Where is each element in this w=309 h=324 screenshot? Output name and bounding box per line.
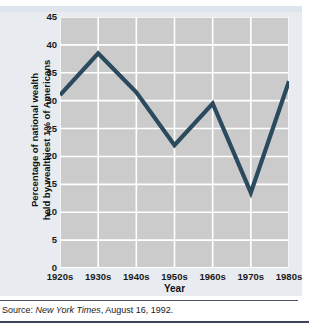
x-tick-label: 1970s bbox=[231, 271, 271, 283]
footer-rule-top bbox=[0, 300, 298, 301]
figure-container: 051015202530354045 1920s1930s1940s1950s1… bbox=[0, 0, 309, 324]
source-suffix: , August 16, 1992. bbox=[101, 305, 174, 315]
x-tick-label: 1980s bbox=[269, 271, 309, 283]
plot-area bbox=[60, 17, 289, 268]
x-axis-title: Year bbox=[60, 283, 289, 294]
x-tick-label: 1950s bbox=[155, 271, 195, 283]
source-publication: New York Times bbox=[36, 305, 101, 315]
footer-rule-bottom bbox=[0, 321, 309, 323]
source-prefix: Source: bbox=[2, 305, 36, 315]
x-tick-label: 1920s bbox=[40, 271, 80, 283]
x-tick-label: 1940s bbox=[116, 271, 156, 283]
y-axis-title: Percentage of national wealth held by we… bbox=[29, 15, 53, 265]
x-tick-label: 1960s bbox=[193, 271, 233, 283]
line-chart-svg bbox=[60, 17, 289, 268]
y-axis-title-line-2: held by wealthiest 1% of Americans bbox=[41, 15, 53, 265]
y-axis-title-line-1: Percentage of national wealth bbox=[29, 73, 40, 207]
x-tick-label: 1930s bbox=[78, 271, 118, 283]
source-note: Source: New York Times, August 16, 1992. bbox=[2, 305, 302, 315]
